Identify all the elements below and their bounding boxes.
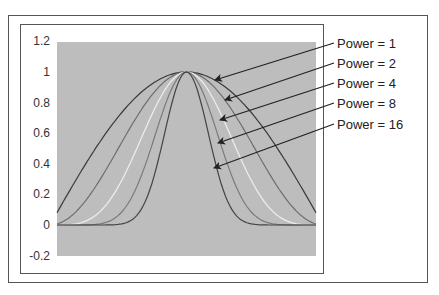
legend-label: Power = 2 xyxy=(337,56,396,71)
y-tick-label: 0.4 xyxy=(33,157,50,171)
y-tick-label: 0.8 xyxy=(33,96,50,110)
legend-label: Power = 1 xyxy=(337,36,396,51)
legend-label: Power = 16 xyxy=(337,117,403,132)
y-tick-label: 0.2 xyxy=(33,187,50,201)
y-tick-label: 1 xyxy=(43,65,50,79)
legend-label: Power = 4 xyxy=(337,76,396,91)
y-tick-label: 1.2 xyxy=(33,34,50,48)
y-tick-label: 0.6 xyxy=(33,126,50,140)
chart: 1.210.80.60.40.20-0.2 Power = 1Power = 2… xyxy=(0,0,439,295)
y-axis-ticks: 1.210.80.60.40.20-0.2 xyxy=(29,34,50,262)
y-tick-label: 0 xyxy=(43,218,50,232)
legend-label: Power = 8 xyxy=(337,96,396,111)
y-tick-label: -0.2 xyxy=(29,249,50,263)
